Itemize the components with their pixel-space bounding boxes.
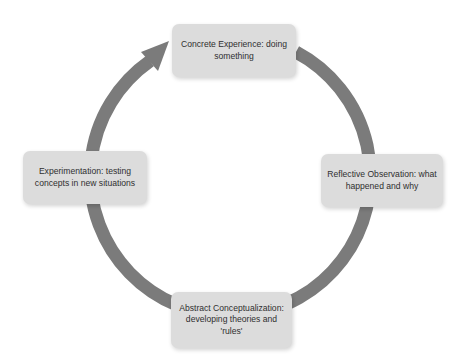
stage-concrete-experience: Concrete Experience: doing something: [172, 24, 296, 77]
stage-label: Abstract Conceptualization: developing t…: [177, 303, 286, 338]
stage-label: Reflective Observation: what happened an…: [327, 169, 437, 192]
stage-label: Experimentation: testing concepts in new…: [29, 166, 141, 189]
stage-reflective-observation: Reflective Observation: what happened an…: [321, 154, 443, 207]
stage-experimentation: Experimentation: testing concepts in new…: [23, 151, 147, 204]
stage-abstract-conceptualization: Abstract Conceptualization: developing t…: [171, 292, 292, 348]
stage-label: Concrete Experience: doing something: [178, 39, 290, 62]
